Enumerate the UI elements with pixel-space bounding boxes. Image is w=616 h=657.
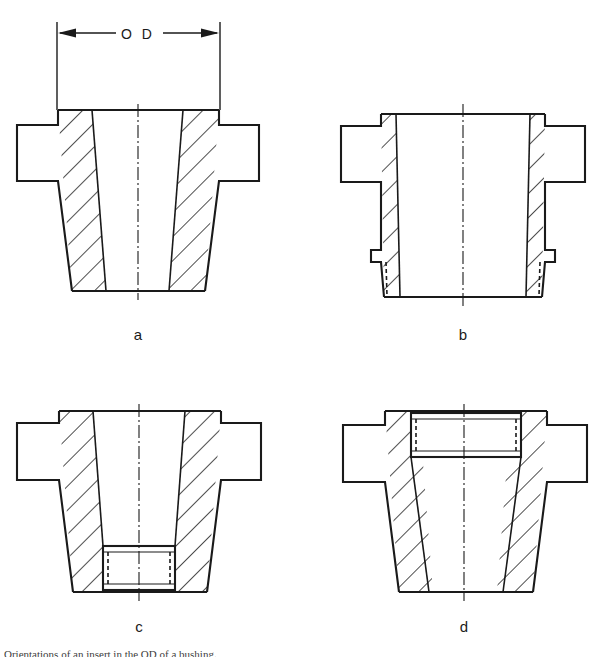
od-dimension-label: O D [121, 26, 155, 42]
figure-d: d [330, 404, 610, 635]
figure-c-label: c [135, 618, 143, 635]
figure-a-label: a [134, 326, 143, 343]
figure-d-label: d [460, 618, 468, 635]
sectional-drawing-canvas: O D a [0, 0, 616, 657]
figure-c: c [0, 404, 300, 635]
figure-sheet: O D a [0, 0, 616, 657]
od-dimension: O D [57, 22, 220, 110]
figure-b: b [330, 104, 610, 343]
figure-b-label: b [459, 326, 467, 343]
figure-a: a [0, 100, 300, 343]
figure-caption: Orientations of an insert in the OD of a… [4, 648, 612, 657]
arrowhead-right-icon [201, 29, 219, 38]
figure-d-insert [411, 413, 521, 457]
figure-b-outline-left [341, 114, 384, 297]
arrowhead-left-icon [58, 29, 76, 38]
figure-b-outline-right [542, 114, 585, 297]
